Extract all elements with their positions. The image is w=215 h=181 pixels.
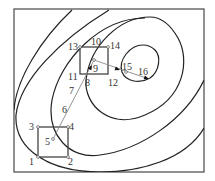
point-label-12: 12 bbox=[108, 77, 118, 88]
point-marker-1 bbox=[37, 156, 40, 159]
point-label-13: 13 bbox=[68, 41, 78, 52]
point-label-8: 8 bbox=[85, 77, 90, 88]
point-label-14: 14 bbox=[110, 40, 120, 51]
point-marker-13 bbox=[79, 46, 82, 49]
point-label-4: 4 bbox=[69, 121, 74, 132]
point-markers bbox=[37, 46, 128, 159]
point-label-15: 15 bbox=[122, 61, 132, 72]
point-label-5: 5 bbox=[45, 136, 50, 147]
contour-c1 bbox=[14, 10, 72, 110]
point-marker-9 bbox=[93, 59, 96, 62]
point-label-1: 1 bbox=[29, 156, 34, 167]
point-marker-5 bbox=[52, 138, 55, 141]
contour-search-diagram: 12345678910111213141516 bbox=[0, 0, 215, 181]
box-lower bbox=[38, 127, 68, 157]
point-marker-14 bbox=[107, 46, 110, 49]
contour-lines bbox=[14, 10, 204, 172]
contour-c4 bbox=[86, 17, 184, 120]
point-label-7: 7 bbox=[69, 85, 74, 96]
contour-c3 bbox=[51, 18, 204, 156]
point-label-10: 10 bbox=[91, 36, 101, 47]
point-label-2: 2 bbox=[68, 156, 73, 167]
point-label-3: 3 bbox=[29, 121, 34, 132]
point-label-6: 6 bbox=[62, 104, 67, 115]
point-label-11: 11 bbox=[68, 71, 78, 82]
point-marker-3 bbox=[37, 126, 40, 129]
point-label-16: 16 bbox=[138, 66, 148, 77]
point-label-9: 9 bbox=[93, 63, 98, 74]
